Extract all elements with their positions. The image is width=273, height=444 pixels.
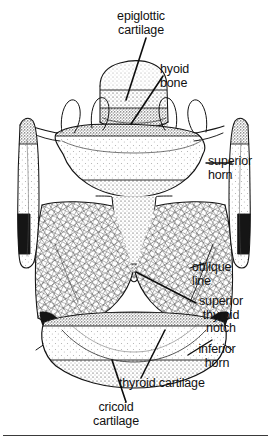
anatomy-figure: epiglottic cartilage hyoid bone superior… (0, 0, 273, 444)
label-superior-thyroid-notch: superior thyroid notch (185, 295, 257, 336)
figure-divider-rule (3, 435, 268, 436)
label-inferior-horn: inferior horn (182, 343, 252, 370)
label-thyroid-cartilage: thyroid cartilage (119, 377, 219, 391)
label-cricoid-cartilage: cricoid cartilage (66, 401, 166, 428)
label-superior-horn: superior horn (208, 155, 272, 182)
label-hyoid-bone: hyoid bone (160, 63, 224, 90)
label-epiglottic-cartilage: epiglottic cartilage (96, 10, 186, 37)
label-oblique-line: oblique line (192, 261, 254, 288)
